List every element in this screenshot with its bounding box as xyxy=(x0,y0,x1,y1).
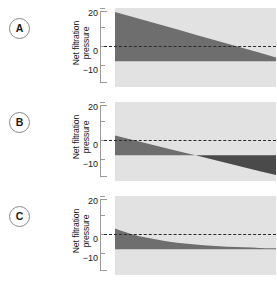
y-tick-label-neg10-c: −10 xyxy=(83,254,98,263)
y-tick-labels-a: 20 0 −10 xyxy=(70,6,98,88)
y-tick-mark-neg10-c xyxy=(100,253,105,254)
y-tick-labels-c: 20 0 −10 xyxy=(70,194,98,276)
y-tick-mark-neg10-b xyxy=(100,159,105,160)
y-tick-label-20-a: 20 xyxy=(88,9,98,18)
y-tick-label-0-b: 0 xyxy=(93,141,98,150)
y-tick-label-0-c: 0 xyxy=(93,235,98,244)
zero-line-a xyxy=(104,46,276,47)
y-tick-mark-20-b xyxy=(100,102,105,103)
y-tick-label-neg10-a: −10 xyxy=(83,66,98,75)
y-tick-mark-10-c xyxy=(100,215,105,216)
y-tick-label-20-c: 20 xyxy=(88,197,98,206)
plot-svg-c xyxy=(115,196,276,275)
panel-b: B Net filtration pressure 20 0 −10 xyxy=(0,94,276,188)
panel-label-b: B xyxy=(9,112,30,133)
panel-c: C Net filtration pressure 20 0 −10 xyxy=(0,188,276,282)
filtration-area-a xyxy=(115,12,276,61)
y-tick-label-0-a: 0 xyxy=(93,47,98,56)
filtration-area-negative-b xyxy=(196,155,277,175)
plot-area-a xyxy=(115,8,276,87)
net-filtration-pressure-figure: A Net filtration pressure 20 0 −10 B xyxy=(0,0,276,282)
filtration-area-c xyxy=(115,229,276,250)
filtration-area-b xyxy=(115,136,196,156)
y-tick-label-neg10-b: −10 xyxy=(83,160,98,169)
zero-line-c xyxy=(104,234,276,235)
y-tick-mark-10-a xyxy=(100,27,105,28)
y-tick-labels-b: 20 0 −10 xyxy=(70,100,98,182)
plot-area-c xyxy=(115,196,276,275)
y-tick-mark-10-b xyxy=(100,121,105,122)
y-tick-mark-neg10-a xyxy=(100,65,105,66)
panel-label-c: C xyxy=(9,206,30,227)
zero-line-b xyxy=(104,140,276,141)
plot-svg-a xyxy=(115,8,276,87)
y-tick-mark-20-c xyxy=(100,196,105,197)
y-axis-spine-a xyxy=(100,11,107,83)
y-axis-spine-c xyxy=(100,199,107,271)
plot-svg-b xyxy=(115,102,276,181)
y-axis-spine-b xyxy=(100,105,107,177)
panel-a: A Net filtration pressure 20 0 −10 xyxy=(0,0,276,94)
y-tick-label-20-b: 20 xyxy=(88,103,98,112)
panel-label-a: A xyxy=(9,18,30,39)
plot-area-b xyxy=(115,102,276,181)
y-tick-mark-20-a xyxy=(100,8,105,9)
